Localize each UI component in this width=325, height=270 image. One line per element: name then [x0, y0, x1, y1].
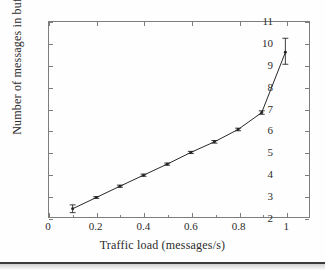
x-axis-minor-tick [120, 215, 121, 217]
page-edge-shadow [0, 264, 325, 270]
y-axis-tick [49, 88, 53, 89]
y-axis-tick [305, 66, 309, 67]
y-axis-tick [49, 175, 53, 176]
x-axis-tick [192, 22, 193, 26]
data-point-marker [142, 174, 145, 177]
y-axis-tick-label: 11 [262, 16, 273, 27]
data-point-marker [237, 128, 240, 131]
y-axis-tick [305, 22, 309, 23]
y-axis-tick-label: 9 [268, 59, 274, 70]
y-axis-tick-label: 2 [268, 213, 274, 224]
chart-figure: Number of messages in buffer Traffic loa… [0, 0, 325, 270]
y-axis-tick [305, 88, 309, 89]
x-axis-tick [240, 22, 241, 26]
plot-area [48, 21, 310, 218]
x-axis-minor-tick [168, 215, 169, 217]
data-point-marker [118, 185, 121, 188]
y-axis-tick [49, 110, 53, 111]
y-axis-tick [305, 219, 309, 220]
y-axis-tick-label: 5 [268, 147, 274, 158]
x-axis-tick [97, 213, 98, 217]
data-point-marker [166, 163, 169, 166]
x-axis-tick [144, 213, 145, 217]
y-axis-title: Number of messages in buffer [10, 0, 25, 150]
x-axis-tick [144, 22, 145, 26]
x-axis-tick [287, 22, 288, 26]
data-point-marker [213, 140, 216, 143]
x-axis-tick-label: 1 [283, 221, 289, 232]
x-axis-tick [192, 213, 193, 217]
x-axis-tick-label: 0.4 [136, 221, 150, 232]
x-axis-tick [97, 22, 98, 26]
data-point-marker [95, 196, 98, 199]
data-point-marker [260, 111, 263, 114]
x-axis-tick-label: 0.2 [89, 221, 103, 232]
x-axis-title: Traffic load (messages/s) [0, 238, 325, 253]
y-axis-tick [49, 153, 53, 154]
x-axis-minor-tick [216, 215, 217, 217]
data-series-layer [49, 22, 309, 217]
data-point-marker [284, 51, 287, 54]
x-axis-tick-label: 0.8 [232, 221, 246, 232]
y-axis-tick-label: 3 [268, 191, 274, 202]
y-axis-tick [305, 131, 309, 132]
x-axis-tick [287, 213, 288, 217]
y-axis-tick-label: 6 [268, 125, 274, 136]
y-axis-tick [49, 131, 53, 132]
data-point-marker [189, 151, 192, 154]
x-axis-minor-tick [73, 215, 74, 217]
y-axis-tick [305, 44, 309, 45]
x-axis-tick-label: 0 [45, 221, 51, 232]
y-axis-tick [49, 44, 53, 45]
y-axis-tick-label: 10 [262, 37, 273, 48]
x-axis-tick-label: 0.6 [184, 221, 198, 232]
data-point-marker [71, 207, 74, 210]
x-axis-tick [49, 213, 50, 217]
y-axis-tick-label: 8 [268, 81, 274, 92]
y-axis-tick [305, 153, 309, 154]
data-line [73, 52, 286, 208]
x-axis-minor-tick [263, 215, 264, 217]
x-axis-tick [240, 213, 241, 217]
y-axis-tick [305, 175, 309, 176]
y-axis-tick [305, 197, 309, 198]
y-axis-tick-label: 4 [268, 169, 274, 180]
y-axis-tick [49, 66, 53, 67]
y-axis-tick [49, 197, 53, 198]
y-axis-tick [305, 110, 309, 111]
x-axis-tick [49, 22, 50, 26]
y-axis-tick-label: 7 [268, 103, 274, 114]
